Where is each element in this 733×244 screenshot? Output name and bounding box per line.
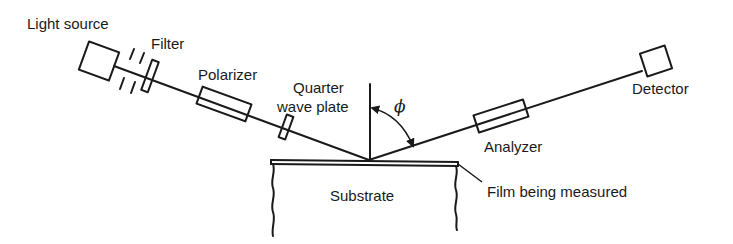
polarizer-label: Polarizer [198,66,257,83]
substrate-right-edge [455,166,457,230]
angle-arc-icon [372,108,413,146]
analyzer-label: Analyzer [484,138,542,155]
detector-icon [640,46,672,77]
film-label: Film being measured [487,183,627,200]
detector-label: Detector [632,80,689,97]
angle-phi-label: ϕ [394,96,406,116]
ellipsometer-diagram: Light source Filter Polarizer Quarter wa… [0,0,733,244]
light-source-label: Light source [27,15,109,32]
substrate-left-edge [272,164,274,236]
filter-label: Filter [151,35,184,52]
substrate-label: Substrate [330,187,394,204]
quarter-wave-label-line2: wave plate [276,98,349,115]
polarizer-icon [196,87,251,122]
film-layer [271,160,458,166]
light-rays-icon [120,49,144,93]
light-source-icon [79,41,119,80]
quarter-wave-label-line1: Quarter [293,79,344,96]
film-leader-line [458,164,482,182]
